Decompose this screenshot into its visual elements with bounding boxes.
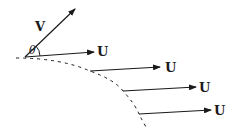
uniform-label-4: U [214,103,226,118]
uniform-arrow-2 [90,67,160,71]
velocity-label: V [34,19,46,34]
uniform-label-2: U [165,60,177,75]
angle-label: θ [29,44,36,57]
uniform-label-1: U [97,44,109,59]
uniform-label-3: U [199,80,211,95]
trajectory-diagram: V θ U U U U [0,0,234,132]
angle-arc [36,46,40,56]
uniform-arrow-4 [139,110,211,114]
uniform-arrow-3 [123,87,196,91]
